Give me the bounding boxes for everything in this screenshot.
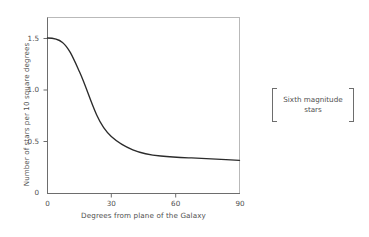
y-axis-ticks <box>44 39 48 142</box>
data-curve-sixth-magnitude <box>48 38 240 160</box>
x-axis-ticks <box>111 194 175 198</box>
x-tick-label-0: 0 <box>37 199 59 208</box>
y-axis-title: Number of stars per 10 square degrees <box>22 20 31 210</box>
x-tick-label-90: 90 <box>229 199 251 208</box>
annotation-text: Sixth magnitude stars <box>278 95 348 115</box>
figure: 1.5 1.0 0.5 0 0 30 60 90 Number of stars… <box>0 0 369 237</box>
annotation-line-1: Sixth magnitude <box>283 95 342 104</box>
x-axis-title: Degrees from plane of the Galaxy <box>47 211 240 220</box>
x-tick-label-60: 60 <box>165 199 187 208</box>
right-bracket-icon <box>349 88 354 122</box>
x-tick-label-30: 30 <box>100 199 122 208</box>
annotation-sixth-magnitude-stars: Sixth magnitude stars <box>272 88 354 122</box>
left-bracket-icon <box>272 88 277 122</box>
annotation-line-2: stars <box>304 105 322 114</box>
